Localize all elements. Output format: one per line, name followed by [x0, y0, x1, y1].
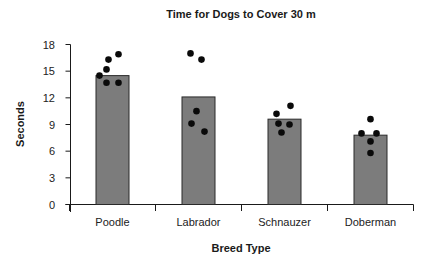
y-axis-label: Seconds — [14, 101, 26, 147]
data-point — [358, 130, 365, 137]
data-point — [273, 111, 280, 118]
data-point — [367, 138, 374, 145]
data-point — [105, 56, 112, 63]
y-tick-label: 6 — [49, 145, 55, 157]
x-tick-label: Doberman — [345, 216, 396, 228]
data-point — [103, 79, 110, 86]
y-axis: 0369121518 — [43, 39, 71, 213]
data-point — [286, 121, 293, 128]
y-tick-label: 12 — [43, 92, 55, 104]
x-tick-label: Labrador — [176, 216, 220, 228]
data-point — [187, 50, 194, 57]
y-tick-label: 0 — [49, 199, 55, 211]
y-tick-label: 15 — [43, 65, 55, 77]
data-point — [115, 51, 122, 58]
bar-chart: Time for Dogs to Cover 30 m 0369121518 P… — [0, 0, 433, 266]
data-point — [188, 120, 195, 127]
x-tick-label: Schnauzer — [258, 216, 311, 228]
data-point — [103, 66, 110, 73]
x-axis-label: Breed Type — [211, 242, 270, 254]
data-point — [198, 56, 205, 63]
data-point — [193, 108, 200, 115]
data-point — [201, 128, 208, 135]
data-points — [96, 50, 380, 156]
y-tick-label: 3 — [49, 172, 55, 184]
y-tick-label: 9 — [49, 119, 55, 131]
data-point — [275, 120, 282, 127]
data-point — [367, 150, 374, 157]
data-point — [367, 116, 374, 123]
data-point — [278, 129, 285, 136]
data-point — [115, 79, 122, 86]
y-tick-label: 18 — [43, 39, 55, 51]
bar-doberman — [354, 135, 387, 204]
data-point — [96, 72, 103, 79]
bar-poodle — [96, 76, 129, 205]
chart-title: Time for Dogs to Cover 30 m — [166, 8, 316, 20]
data-point — [373, 130, 380, 137]
x-axis: PoodleLabradorSchnauzerDoberman — [66, 205, 414, 229]
x-tick-label: Poodle — [95, 216, 129, 228]
data-point — [287, 103, 294, 110]
bars — [96, 76, 387, 205]
